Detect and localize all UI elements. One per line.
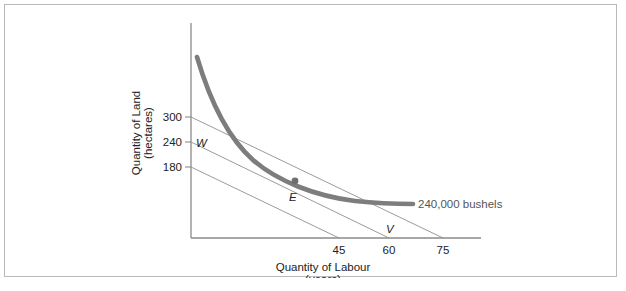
annotation-label-v: V (386, 223, 395, 235)
y-tick-label-180: 180 (163, 161, 182, 173)
x-axis-title: Quantity of Labour (276, 261, 371, 273)
isoquant-isocost-chart: 300 240 180 45 60 75 W E V 240,000 bushe… (5, 5, 618, 278)
x-axis-title-unit: (years) (305, 273, 341, 278)
annotation-label-e: E (289, 191, 297, 203)
y-tick-label-240: 240 (163, 136, 182, 148)
y-tick-label-300: 300 (163, 111, 182, 123)
x-tick-label-75: 75 (437, 244, 450, 256)
y-axis-title-unit: (hectares) (142, 107, 154, 159)
figure-frame: 300 240 180 45 60 75 W E V 240,000 bushe… (4, 4, 617, 277)
x-tick-label-45: 45 (333, 244, 346, 256)
x-tick-label-60: 60 (383, 244, 396, 256)
isoquant-curve (197, 57, 413, 204)
isoquant-curve-label: 240,000 bushels (418, 198, 503, 210)
y-axis-title: Quantity of Land (130, 91, 142, 175)
isocost-line-middle (191, 142, 389, 238)
figure-container: 300 240 180 45 60 75 W E V 240,000 bushe… (0, 0, 626, 291)
point-marker-e (292, 178, 299, 185)
annotation-label-w: W (196, 137, 208, 149)
